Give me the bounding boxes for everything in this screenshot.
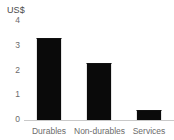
- y-axis-tick-0: 0: [0, 115, 20, 124]
- y-axis-tick-2: 2: [0, 66, 20, 75]
- x-axis-label-non-durables: Non-durables: [74, 126, 124, 136]
- plot-area: [24, 21, 174, 120]
- x-axis-label-durables: Durables: [24, 126, 74, 136]
- y-axis-tick-1: 1: [0, 90, 20, 99]
- x-axis-label-services: Services: [124, 126, 174, 136]
- y-axis-tick-3: 3: [0, 41, 20, 50]
- x-axis-line: [24, 120, 174, 121]
- bar-durables: [36, 38, 62, 120]
- bar-non-durables: [86, 63, 112, 120]
- y-axis-tick-4: 4: [0, 16, 20, 25]
- bar-services: [136, 110, 162, 120]
- y-axis-unit-label: US$: [7, 5, 25, 15]
- bar-chart: US$ 01234 DurablesNon-durablesServices: [0, 0, 174, 140]
